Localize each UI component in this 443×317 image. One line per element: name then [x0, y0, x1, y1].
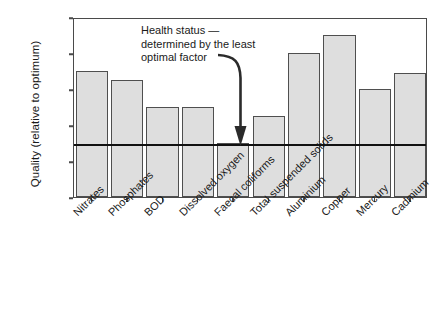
bar — [76, 71, 108, 197]
bar — [323, 35, 355, 197]
annotation-arrow-icon — [215, 52, 267, 148]
bar-chart: Quality (relative to optimum) 00.20.40.6… — [0, 0, 443, 317]
bar — [146, 107, 178, 197]
annotation-line-2: determined by the least — [141, 38, 306, 52]
annotation-line-1: Health status — — [141, 24, 306, 38]
